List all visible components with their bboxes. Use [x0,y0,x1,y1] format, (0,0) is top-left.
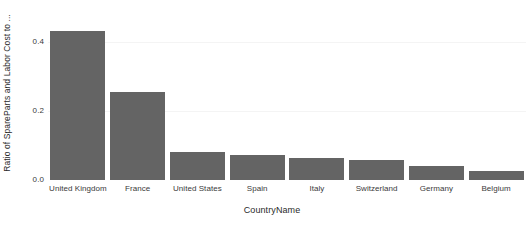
x-axis-tick-label: Spain [227,184,287,195]
x-axis-tick-label: Belgium [466,184,526,195]
bar[interactable] [170,152,225,180]
x-axis-title: CountryName [48,205,496,215]
x-axis-tick-label: Germany [407,184,467,195]
bar[interactable] [110,92,165,180]
y-axis-title: Ratio of SpareParts and Labor Cost to ..… [0,0,14,186]
x-axis-tick-label: Italy [287,184,347,195]
x-axis-tick-label: Switzerland [347,184,407,195]
x-axis-tick-label: United States [168,184,228,195]
y-axis-tick-label: 0.2 [18,106,44,116]
x-axis-tick-label: United Kingdom [48,184,108,195]
bar-chart: Ratio of SpareParts and Labor Cost to ..… [0,0,530,228]
x-axis-baseline [48,180,526,181]
bar[interactable] [50,31,105,180]
y-axis-tick-label: 0.4 [18,37,44,47]
bar[interactable] [469,171,524,180]
y-axis-tick-labels: 0.00.20.4 [14,0,44,228]
bar[interactable] [409,166,464,180]
bar[interactable] [230,155,285,180]
bar[interactable] [349,160,404,180]
x-axis-tick-label: France [108,184,168,195]
bar[interactable] [289,158,344,180]
bars-layer [48,0,526,180]
y-axis-tick-label: 0.0 [18,175,44,185]
